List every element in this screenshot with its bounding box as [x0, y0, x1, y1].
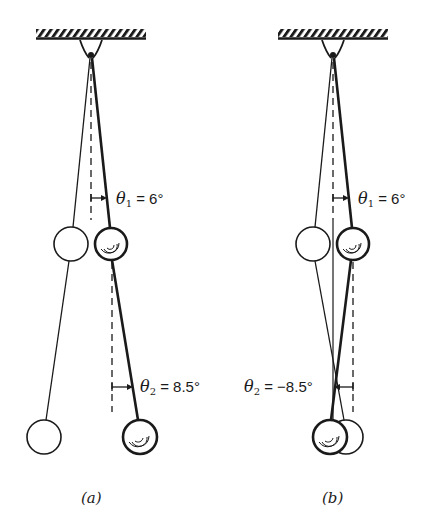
bob-lower-shaded-b	[313, 420, 347, 454]
theta1-label-a: θ1 = 6°	[116, 189, 163, 209]
caption-a: (a)	[81, 489, 102, 507]
ceiling-support-a	[36, 29, 146, 58]
bob-lower-shaded-a	[123, 420, 157, 454]
ceiling-support-b	[278, 29, 388, 58]
panel-a: θ1 = 6° θ2 = 8.5° (a)	[27, 29, 200, 507]
theta1-arrow-b	[333, 194, 349, 202]
theta2-label-b: θ2 = −8.5°	[244, 377, 313, 397]
pendulum-initial-a	[27, 58, 90, 454]
double-pendulum-figure: θ1 = 6° θ2 = 8.5° (a)	[0, 0, 433, 529]
theta2-label-a: θ2 = 8.5°	[140, 377, 200, 397]
theta1-arrow-a	[91, 194, 107, 202]
theta2-arrow-a	[112, 383, 133, 391]
panel-b: θ1 = 6° θ2 = −8.5° (b)	[244, 29, 405, 507]
caption-b: (b)	[322, 489, 343, 507]
bob-upper-shaded-b	[337, 228, 369, 260]
bob-upper-shaded-a	[95, 228, 127, 260]
theta1-label-b: θ1 = 6°	[358, 189, 405, 209]
